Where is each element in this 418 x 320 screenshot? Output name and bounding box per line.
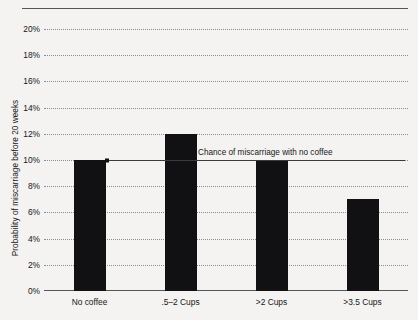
y-axis-tick-label: 16% [23, 76, 40, 86]
bar [165, 134, 197, 291]
gridline [44, 55, 408, 56]
x-axis-tick-label: >3.5 Cups [343, 297, 381, 307]
top-divider-rule [22, 8, 408, 9]
reference-line [106, 160, 406, 161]
gridline [44, 108, 408, 109]
reference-line-label: Chance of miscarriage with no coffee [198, 148, 333, 157]
y-axis-tick-label: 14% [23, 103, 40, 113]
reference-line-marker [105, 159, 109, 163]
gridline [44, 81, 408, 82]
x-axis-tick-label: >2 Cups [256, 297, 287, 307]
x-axis-tick-label: No coffee [72, 297, 108, 307]
chart-figure: Probability of miscarriage before 20 wee… [0, 0, 418, 320]
gridline [44, 29, 408, 30]
y-axis-tick-label: 0% [28, 286, 40, 296]
y-axis-tick-label: 4% [28, 234, 40, 244]
y-axis-title: Probability of miscarriage before 20 wee… [11, 66, 25, 290]
y-axis-tick-label: 18% [23, 50, 40, 60]
y-axis-tick-label: 10% [23, 155, 40, 165]
bar [256, 160, 288, 291]
bar [74, 160, 106, 291]
bar [347, 199, 379, 291]
x-axis-tick-label: .5–2 Cups [161, 297, 199, 307]
y-axis-tick-label: 20% [23, 24, 40, 34]
y-axis-tick-label: 2% [28, 260, 40, 270]
y-axis-tick-label: 6% [28, 207, 40, 217]
gridline [44, 134, 408, 135]
y-axis-tick-label: 12% [23, 129, 40, 139]
plot-area: 0%2%4%6%8%10%12%14%16%18%20% No coffee.5… [44, 29, 408, 291]
y-axis-tick-label: 8% [28, 181, 40, 191]
